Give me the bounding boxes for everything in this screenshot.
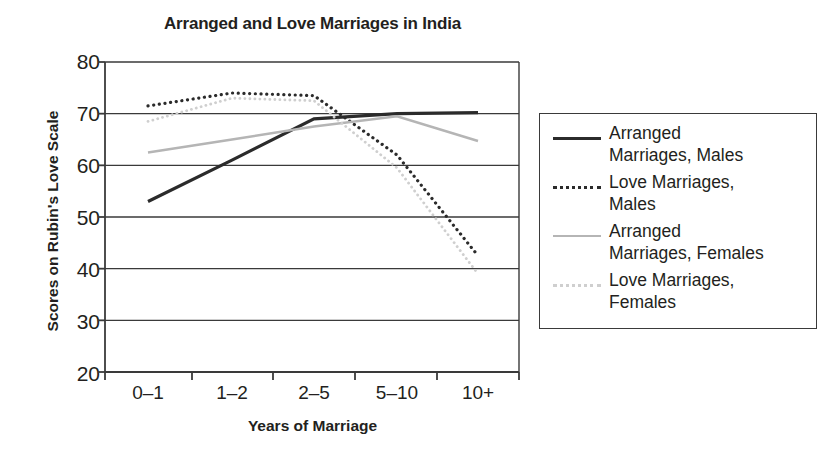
- legend-item-love-males: Love Marriages, Males: [551, 171, 813, 215]
- series-line-3: [148, 98, 478, 274]
- legend-item-love-females: Love Marriages, Females: [551, 269, 813, 313]
- legend-item-arranged-males: Arranged Marriages, Males: [551, 122, 813, 166]
- legend-swatch-dotted-light: [551, 276, 603, 296]
- legend-swatch-dotted-dark: [551, 178, 603, 198]
- legend-label-arranged-females: Arranged Marriages, Females: [609, 220, 764, 264]
- chart-figure: Arranged and Love Marriages in India Sco…: [0, 0, 830, 466]
- legend-swatch-solid-dark: [551, 129, 603, 149]
- series-line-2: [148, 116, 478, 152]
- legend-label-love-females: Love Marriages, Females: [609, 269, 734, 313]
- legend-item-arranged-females: Arranged Marriages, Females: [551, 220, 813, 264]
- chart-legend: Arranged Marriages, Males Love Marriages…: [539, 113, 817, 329]
- legend-label-love-males: Love Marriages, Males: [609, 171, 734, 215]
- series-line-1: [148, 93, 478, 256]
- legend-label-arranged-males: Arranged Marriages, Males: [609, 122, 743, 166]
- legend-swatch-solid-gray: [551, 227, 603, 247]
